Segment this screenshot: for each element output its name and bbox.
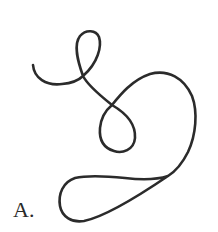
continuous-loop-curve (33, 31, 195, 221)
figure-canvas: A. (0, 0, 218, 232)
figure-label: A. (13, 199, 34, 221)
